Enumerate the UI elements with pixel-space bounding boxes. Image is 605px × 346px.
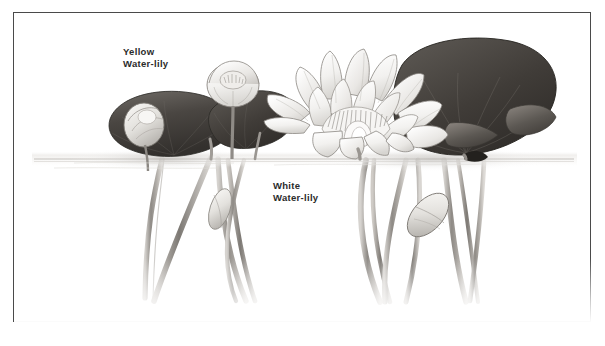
label-white-line2: Water-lily [273,192,318,203]
label-white-line1: White [273,180,300,191]
label-yellow-line2: Water-lily [123,58,168,69]
plate-border: YellowWater-lily WhiteWater-lily [13,12,591,322]
white-water-lily [264,38,556,162]
label-white-water-lily: WhiteWater-lily [273,180,318,203]
illustration-plate: YellowWater-lily WhiteWater-lily [0,0,605,346]
water-lily-drawing [14,13,592,323]
label-yellow-line1: Yellow [123,46,154,57]
label-yellow-water-lily: YellowWater-lily [123,46,168,69]
